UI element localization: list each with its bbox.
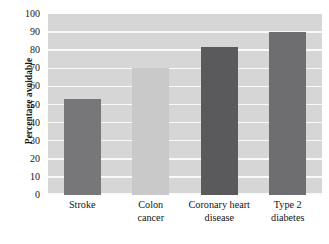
x-axis-label-line: disease [185, 212, 254, 225]
y-axis-tick-label: 10 [0, 172, 44, 182]
x-axis-category-labels: StrokeColoncancerCoronary heartdiseaseTy… [48, 199, 322, 241]
x-axis-label-line: Stroke [48, 199, 117, 212]
y-axis-tick-label: 20 [0, 154, 44, 164]
x-axis-label-type-2-diabetes: Type 2diabetes [254, 199, 323, 224]
x-axis-label-line: Colon [117, 199, 186, 212]
bar-colon-cancer [132, 68, 169, 195]
x-axis-label-stroke: Stroke [48, 199, 117, 212]
y-axis-tick-label: 70 [0, 63, 44, 73]
y-axis-tick-label: 80 [0, 45, 44, 55]
y-axis-tick-label: 40 [0, 118, 44, 128]
x-axis-label-line: Type 2 [254, 199, 323, 212]
bar-stroke [64, 99, 101, 195]
plot-area [48, 14, 322, 195]
bar-type-2-diabetes [269, 32, 306, 195]
bar-coronary-heart-disease [201, 47, 238, 195]
y-axis-tick-label: 90 [0, 27, 44, 37]
bar-chart: Percentage avoidable 1009080706050403020… [0, 0, 329, 244]
x-axis-label-line: cancer [117, 212, 186, 225]
y-axis-tick-label: 50 [0, 100, 44, 110]
y-axis-tick-labels: 1009080706050403020100 [0, 14, 44, 195]
x-axis-label-line: diabetes [254, 212, 323, 225]
bars [48, 14, 322, 195]
y-axis-tick-label: 100 [0, 9, 44, 19]
x-axis-label-coronary-heart-disease: Coronary heartdisease [185, 199, 254, 224]
x-axis-label-colon-cancer: Coloncancer [117, 199, 186, 224]
y-axis-tick-label: 60 [0, 81, 44, 91]
y-axis-tick-label: 30 [0, 136, 44, 146]
x-axis-label-line: Coronary heart [185, 199, 254, 212]
y-axis-tick-label: 0 [0, 190, 44, 200]
